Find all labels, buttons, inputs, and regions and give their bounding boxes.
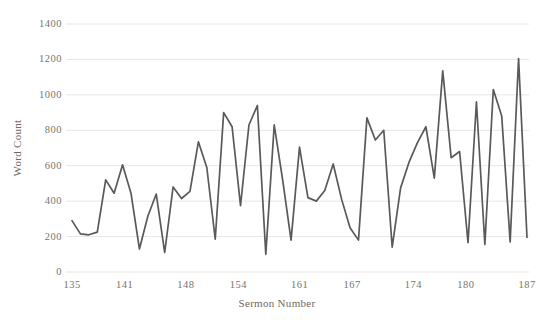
x-tick-label: 161 xyxy=(280,280,320,291)
x-tick-label: 154 xyxy=(218,280,258,291)
x-tick-label: 187 xyxy=(507,280,547,291)
y-tick-label: 800 xyxy=(18,125,62,136)
x-tick-label: 174 xyxy=(393,280,433,291)
y-axis-title: Word Count xyxy=(11,103,23,193)
gridlines xyxy=(66,24,529,272)
y-tick-label: 0 xyxy=(18,267,62,278)
y-tick-label: 200 xyxy=(18,232,62,243)
x-tick-label: 141 xyxy=(105,280,145,291)
data-line-word-count xyxy=(72,59,527,255)
y-tick-label: 400 xyxy=(18,196,62,207)
y-tick-label: 1000 xyxy=(18,90,62,101)
y-tick-label: 1400 xyxy=(18,19,62,30)
word-count-line-chart: 0200400600800100012001400 13514114815416… xyxy=(0,0,554,326)
y-tick-label: 1200 xyxy=(18,54,62,65)
x-tick-label: 167 xyxy=(332,280,372,291)
x-tick-label: 135 xyxy=(52,280,92,291)
x-tick-label: 148 xyxy=(166,280,206,291)
x-axis-title: Sermon Number xyxy=(0,297,554,309)
x-tick-label: 180 xyxy=(446,280,486,291)
chart-plot-area xyxy=(0,0,554,326)
y-tick-label: 600 xyxy=(18,161,62,172)
